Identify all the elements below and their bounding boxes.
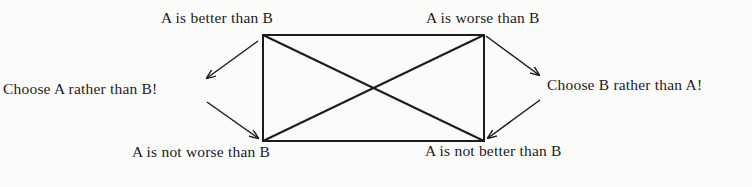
label-a-not-better: A is not better than B: [425, 142, 562, 160]
arrow-icon: [488, 100, 540, 138]
label-choose-b: Choose B rather than A!: [547, 76, 702, 94]
label-choose-a: Choose A rather than B!: [3, 80, 157, 98]
arrow-icon: [486, 36, 539, 75]
arrow-icon: [207, 102, 258, 138]
label-a-better: A is better than B: [161, 9, 273, 27]
label-a-not-worse: A is not worse than B: [132, 143, 270, 161]
arrow-icon: [207, 41, 258, 78]
label-a-worse: A is worse than B: [426, 9, 540, 27]
